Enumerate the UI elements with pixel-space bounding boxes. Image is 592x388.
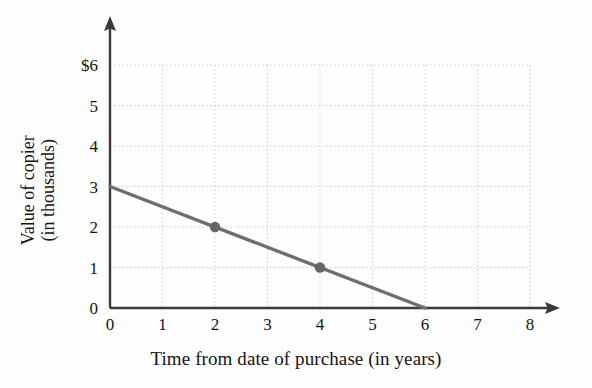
x-tick-label: 3 — [263, 316, 272, 333]
y-axis-title-line-1: Value of copier — [18, 135, 38, 245]
y-tick-label: 0 — [68, 300, 98, 317]
x-tick-label: 7 — [473, 316, 482, 333]
y-tick-label: 5 — [68, 97, 98, 114]
y-axis-title: Value of copier (in thousands) — [18, 95, 58, 285]
x-tick-label: 5 — [368, 316, 377, 333]
x-tick-label: 8 — [526, 316, 535, 333]
x-axis-title: Time from date of purchase (in years) — [0, 348, 592, 370]
y-axis-title-line-2: (in thousands) — [38, 95, 58, 285]
y-tick-label: 4 — [68, 138, 98, 155]
y-tick-label: 3 — [68, 178, 98, 195]
x-tick-label: 4 — [316, 316, 325, 333]
x-tick-label: 0 — [106, 316, 115, 333]
x-tick-label: 1 — [158, 316, 167, 333]
data-point-marker — [210, 222, 220, 232]
y-tick-label: $6 — [60, 57, 98, 74]
x-tick-label: 6 — [421, 316, 430, 333]
y-axis — [104, 16, 116, 308]
chart-page: 0 1 2 3 4 5 6 7 8 0 1 2 3 4 5 $6 Value o… — [0, 0, 592, 388]
data-point-marker — [315, 262, 325, 272]
x-axis — [110, 302, 560, 314]
x-tick-label: 2 — [211, 316, 220, 333]
y-tick-label: 2 — [68, 219, 98, 236]
y-tick-label: 1 — [68, 259, 98, 276]
